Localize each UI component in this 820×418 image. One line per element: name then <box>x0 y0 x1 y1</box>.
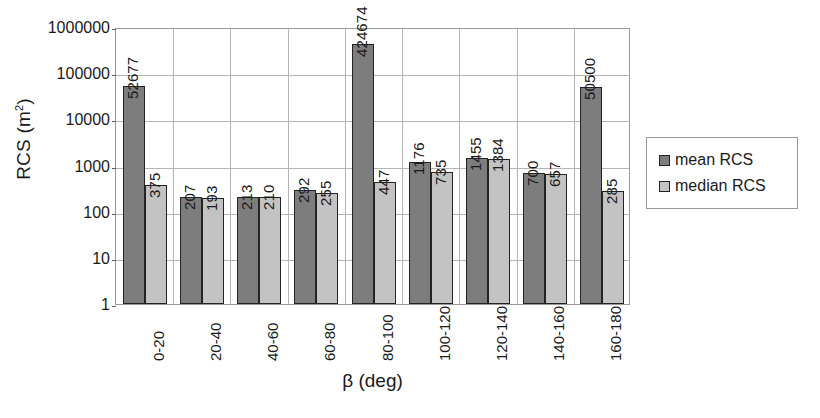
x-axis-tick-label: 40-60 <box>265 323 280 361</box>
bar-median-40-60[interactable] <box>259 197 281 304</box>
y-axis-tick-mark <box>112 260 116 261</box>
gridline-vertical <box>288 29 289 304</box>
bar-value-label: 52677 <box>125 57 140 99</box>
bar-median-160-180[interactable] <box>602 191 624 304</box>
rcs-bar-chart: RCS (m2) 1000000100000100001000100101 52… <box>0 0 820 418</box>
y-axis-tick-mark <box>112 75 116 76</box>
bar-value-label: 207 <box>182 185 197 210</box>
bar-value-label: 285 <box>604 178 619 203</box>
y-axis-tick-mark <box>112 29 116 30</box>
legend-swatch-icon <box>659 181 670 192</box>
bar-median-140-160[interactable] <box>545 174 567 304</box>
bar-mean-100-120[interactable] <box>409 162 431 304</box>
y-axis-tick-label: 100000 <box>26 66 110 82</box>
x-axis-tick-label: 80-100 <box>380 314 395 361</box>
bar-value-label: 210 <box>261 184 276 209</box>
bar-value-label: 700 <box>525 160 540 185</box>
x-axis-title: β (deg) <box>115 370 630 392</box>
x-axis-tick-label: 60-80 <box>322 323 337 361</box>
x-axis-tick-label: 160-180 <box>608 306 623 361</box>
bar-value-label: 424674 <box>354 7 369 58</box>
bar-value-label: 1455 <box>468 137 483 171</box>
bar-mean-20-40[interactable] <box>180 197 202 304</box>
y-axis-tick-mark <box>112 214 116 215</box>
bar-value-label: 193 <box>204 186 219 211</box>
y-axis-tick-label: 10 <box>26 251 110 267</box>
bar-median-60-80[interactable] <box>316 193 338 304</box>
bar-mean-60-80[interactable] <box>294 190 316 304</box>
bar-value-label: 1384 <box>490 138 505 172</box>
bar-median-80-100[interactable] <box>374 182 396 304</box>
x-axis-tick-label: 100-120 <box>437 306 452 361</box>
bar-mean-160-180[interactable] <box>580 87 602 304</box>
y-axis-tick-label: 1000000 <box>26 20 110 36</box>
x-axis-tick-labels: 0-2020-4040-6060-8080-100100-120120-1401… <box>115 307 630 363</box>
bar-mean-40-60[interactable] <box>237 197 259 304</box>
y-axis-tick-label: 10000 <box>26 112 110 128</box>
bar-value-label: 657 <box>547 162 562 187</box>
bar-value-label: 50500 <box>582 58 597 100</box>
bar-value-label: 447 <box>376 169 391 194</box>
legend-item-label: median RCS <box>675 176 766 196</box>
gridline-vertical <box>517 29 518 304</box>
bar-value-label: 1176 <box>411 143 426 176</box>
y-axis-tick-label: 100 <box>26 205 110 221</box>
plot-area: 5267737520719321321029225542467444711767… <box>115 28 630 305</box>
bar-value-label: 375 <box>147 173 162 198</box>
bar-mean-120-140[interactable] <box>466 158 488 304</box>
gridline-vertical <box>402 29 403 304</box>
gridline-vertical <box>173 29 174 304</box>
bar-mean-0-20[interactable] <box>123 86 145 304</box>
legend-item-label: mean RCS <box>675 150 753 170</box>
y-axis-tick-labels: 1000000100000100001000100101 <box>26 28 110 305</box>
bar-median-100-120[interactable] <box>431 172 453 304</box>
gridline-vertical <box>459 29 460 304</box>
x-axis-tick-label: 140-160 <box>551 306 566 361</box>
bar-value-label: 213 <box>239 184 254 209</box>
bar-median-120-140[interactable] <box>488 159 510 304</box>
bar-value-label: 255 <box>318 181 333 206</box>
x-axis-tick-label: 120-140 <box>494 306 509 361</box>
gridline-vertical <box>345 29 346 304</box>
y-axis-tick-label: 1000 <box>26 159 110 175</box>
legend-item-mean-rcs[interactable]: mean RCS <box>647 147 797 173</box>
bar-median-20-40[interactable] <box>202 198 224 304</box>
chart-legend: mean RCSmedian RCS <box>646 137 798 209</box>
x-axis-tick-label: 20-40 <box>208 323 223 361</box>
bar-value-label: 292 <box>296 178 311 203</box>
legend-item-median-rcs[interactable]: median RCS <box>647 173 797 199</box>
bar-value-label: 735 <box>433 159 448 184</box>
bar-mean-80-100[interactable] <box>352 44 374 304</box>
x-axis-tick-label: 0-20 <box>151 331 166 361</box>
y-axis-title-exponent: 2 <box>13 105 25 111</box>
gridline-vertical <box>574 29 575 304</box>
y-axis-tick-label: 1 <box>26 297 110 313</box>
y-axis-tick-mark <box>112 121 116 122</box>
bar-median-0-20[interactable] <box>145 185 167 304</box>
bar-mean-140-160[interactable] <box>523 173 545 304</box>
legend-swatch-icon <box>659 155 670 166</box>
gridline-vertical <box>230 29 231 304</box>
y-axis-tick-mark <box>112 168 116 169</box>
